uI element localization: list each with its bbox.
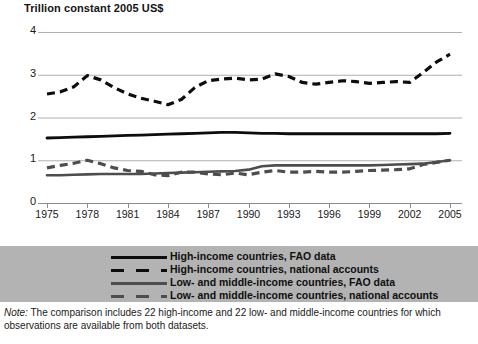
legend-item-label: Low- and middle-income countries, FAO da… xyxy=(170,276,395,289)
legend-item-label: Low- and middle-income countries, nation… xyxy=(170,289,438,302)
legend-item[interactable]: High-income countries, national accounts xyxy=(108,263,438,276)
x-tick-label-2002: 2002 xyxy=(390,208,430,220)
legend-dashed-line-icon xyxy=(108,290,170,302)
legend-solid-line-icon xyxy=(108,277,170,289)
x-tick-label-1984: 1984 xyxy=(148,208,188,220)
y-tick-label-0: 0 xyxy=(16,195,36,207)
legend-item[interactable]: Low- and middle-income countries, FAO da… xyxy=(108,276,438,289)
x-tick-label-2005: 2005 xyxy=(430,208,470,220)
chart-legend: High-income countries, FAO dataHigh-inco… xyxy=(108,250,438,302)
legend-item-label: High-income countries, FAO data xyxy=(170,250,336,263)
plot-area xyxy=(0,0,478,232)
series-line-1 xyxy=(47,54,450,104)
note-text: The comparison includes 22 high-income a… xyxy=(4,307,441,331)
legend-solid-line-icon xyxy=(108,251,170,263)
legend-item[interactable]: High-income countries, FAO data xyxy=(108,250,438,263)
x-tick-label-1999: 1999 xyxy=(349,208,389,220)
y-tick-label-4: 4 xyxy=(16,24,36,36)
legend-dashed-line-icon xyxy=(108,264,170,276)
x-tick-label-1987: 1987 xyxy=(188,208,228,220)
chart-svg xyxy=(0,0,478,232)
x-tick-label-1990: 1990 xyxy=(229,208,269,220)
legend-item-label: High-income countries, national accounts xyxy=(170,263,379,276)
y-tick-label-1: 1 xyxy=(16,152,36,164)
x-tick-label-1975: 1975 xyxy=(27,208,67,220)
legend-item[interactable]: Low- and middle-income countries, nation… xyxy=(108,289,438,302)
y-tick-label-2: 2 xyxy=(16,110,36,122)
x-tick-label-1978: 1978 xyxy=(67,208,107,220)
note-lead: Note: xyxy=(4,307,28,318)
chart-figure: Trillion constant 2005 US$ 01234 1975197… xyxy=(0,0,478,344)
x-tick-label-1993: 1993 xyxy=(269,208,309,220)
series-line-0 xyxy=(47,132,450,138)
figure-note: Note: The comparison includes 22 high-in… xyxy=(4,306,474,332)
x-tick-label-1981: 1981 xyxy=(108,208,148,220)
y-tick-label-3: 3 xyxy=(16,67,36,79)
x-tick-label-1996: 1996 xyxy=(309,208,349,220)
series-line-2 xyxy=(47,160,450,175)
